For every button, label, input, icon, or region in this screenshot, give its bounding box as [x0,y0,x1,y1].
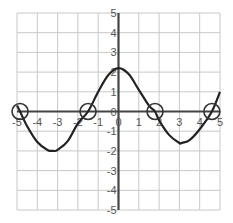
y-tick-label: 1 [110,86,116,98]
x-tick-label: -3 [53,116,63,128]
y-tick-label: 3 [110,46,116,58]
x-tick-label: 3 [176,116,182,128]
x-tick-labels: -5-4-3-2-1012345 [12,116,223,128]
x-tick-label: -1 [93,116,103,128]
x-tick-label: -4 [32,116,42,128]
y-tick-label: 0 [110,106,116,118]
function-graph: -5-4-3-2-1012345 54321-1-2-3-4-50 [0,0,233,223]
y-tick-label: -2 [107,145,117,157]
axes [17,13,220,210]
y-tick-label: -1 [107,125,117,137]
y-tick-label: 5 [110,7,116,19]
y-tick-label: -5 [107,204,117,216]
y-tick-label: -4 [107,184,117,196]
y-tick-label: -3 [107,165,117,177]
x-tick-label: 1 [136,116,142,128]
y-tick-label: 4 [110,27,116,39]
